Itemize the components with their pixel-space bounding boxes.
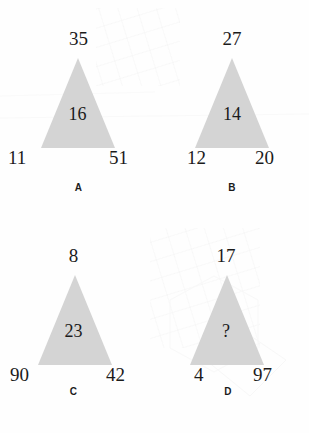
left-number: 4 [194,365,204,384]
left-number: 90 [10,365,29,384]
right-number: 51 [109,148,128,167]
right-number: 97 [253,365,272,384]
center-number: 23 [65,322,83,340]
apex-number: 35 [69,29,88,48]
center-number: 14 [223,105,241,123]
apex-number: 8 [69,246,79,265]
apex-number: 17 [217,246,236,265]
right-number: 20 [255,148,274,167]
puzzle-item-c: 8 23 90 42 C [0,216,155,433]
item-label: C [70,386,78,397]
apex-number: 27 [223,29,242,48]
puzzle-grid: 35 16 11 51 A 27 14 12 20 B 8 23 90 42 C… [0,0,309,433]
puzzle-item-a: 35 16 11 51 A [0,0,155,216]
triangle-icon [38,275,112,365]
center-number: 16 [69,105,87,123]
left-number: 11 [8,148,26,167]
puzzle-item-d: 17 ? 4 97 D [155,216,309,433]
triangle-icon [195,58,269,148]
puzzle-item-b: 27 14 12 20 B [155,0,309,216]
item-label: A [75,182,83,193]
left-number: 12 [187,148,206,167]
right-number: 42 [106,365,125,384]
item-label: D [224,386,232,397]
item-label: B [228,182,236,193]
center-number-unknown: ? [222,322,230,340]
triangle-icon [190,275,264,365]
triangle-icon [41,58,115,148]
